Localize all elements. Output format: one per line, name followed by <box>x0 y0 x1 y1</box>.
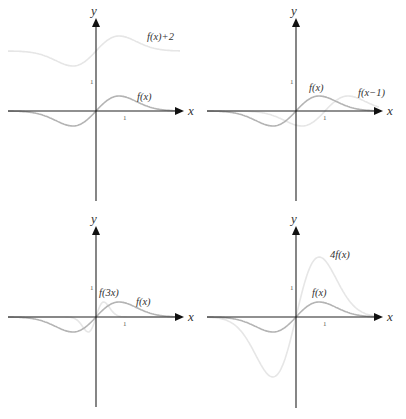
label-f: f(x) <box>136 296 151 308</box>
panel-scale-y: x y 1 1 f(x) 4f(x) <box>203 210 406 419</box>
plot-shift-up: x y 1 1 f(x) f(x)+2 <box>0 0 203 210</box>
y-axis-arrow-icon <box>92 18 100 27</box>
y-axis-label: y <box>89 3 97 18</box>
plot-shift-right: x y 1 1 f(x) f(x−1) <box>203 0 406 210</box>
panel-shift-right: x y 1 1 f(x) f(x−1) <box>203 0 406 210</box>
y-tick-1: 1 <box>290 78 294 86</box>
x-axis-arrow-icon <box>175 107 184 115</box>
x-axis-label: x <box>187 309 194 324</box>
y-axis-label: y <box>89 211 97 226</box>
plot-scale-y: x y 1 1 f(x) 4f(x) <box>203 210 406 419</box>
x-tick-1: 1 <box>323 114 327 122</box>
label-f-plus-2: f(x)+2 <box>147 31 175 43</box>
y-axis-arrow-icon <box>92 226 100 235</box>
label-f-x-minus-1: f(x−1) <box>358 87 385 99</box>
label-f-3x: f(3x) <box>99 287 119 299</box>
panel-compress-x: x y 1 1 f(3x) f(x) <box>0 210 203 419</box>
plot-compress-x: x y 1 1 f(3x) f(x) <box>0 210 203 419</box>
x-axis-label: x <box>386 103 393 118</box>
panel-shift-up: x y 1 1 f(x) f(x)+2 <box>0 0 203 210</box>
label-f: f(x) <box>309 82 324 94</box>
x-axis-arrow-icon <box>175 313 184 321</box>
x-axis-label: x <box>386 309 393 324</box>
label-f: f(x) <box>312 287 327 299</box>
label-4f: 4f(x) <box>330 249 350 261</box>
y-axis-arrow-icon <box>292 18 300 27</box>
y-tick-1: 1 <box>90 284 94 292</box>
x-axis-arrow-icon <box>374 313 383 321</box>
y-axis-label: y <box>289 211 297 226</box>
y-axis-label: y <box>289 3 297 18</box>
label-f: f(x) <box>137 91 152 103</box>
x-tick-1: 1 <box>123 320 127 328</box>
x-axis-arrow-icon <box>374 107 383 115</box>
x-axis-label: x <box>187 103 194 118</box>
y-tick-1: 1 <box>90 78 94 86</box>
y-tick-1: 1 <box>290 284 294 292</box>
y-axis-arrow-icon <box>292 226 300 235</box>
x-tick-1: 1 <box>123 114 127 122</box>
x-tick-1: 1 <box>323 320 327 328</box>
